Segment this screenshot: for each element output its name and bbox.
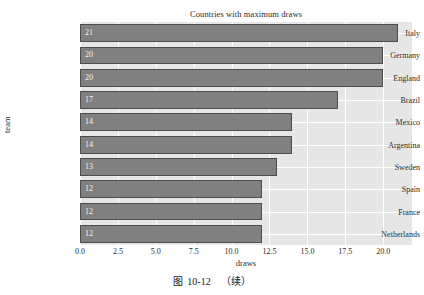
figure-caption: 图10-12（续）: [0, 273, 424, 288]
y-tick-label: Netherlands: [346, 229, 424, 238]
x-tick-label: 5.0: [136, 247, 176, 256]
y-axis-label: team: [2, 116, 12, 133]
bar-value-label: 14: [85, 141, 93, 149]
x-tick-label: 12.5: [249, 247, 289, 256]
x-tick-label: 15.0: [287, 247, 327, 256]
y-tick-label: France: [346, 207, 424, 216]
bar: 14: [80, 113, 292, 131]
caption-suffix: （续）: [221, 276, 251, 287]
x-tick-label: 10.0: [212, 247, 252, 256]
caption-number: 10-12: [187, 276, 210, 287]
bar-value-label: 12: [85, 230, 93, 238]
bar: 13: [80, 158, 277, 176]
y-tick-label: Argentina: [346, 140, 424, 149]
bar-value-label: 12: [85, 208, 93, 216]
bar: 12: [80, 203, 262, 221]
y-tick-label: Brazil: [346, 96, 424, 105]
bar: 12: [80, 225, 262, 243]
bar-value-label: 14: [85, 118, 93, 126]
bar-value-label: 21: [85, 29, 93, 37]
bar: 20: [80, 69, 383, 87]
caption-label: 图: [173, 276, 183, 287]
y-tick-label: Italy: [346, 29, 424, 38]
x-tick-label: 17.5: [325, 247, 365, 256]
figure-container: Countries with maximum draws 21202017141…: [0, 0, 424, 295]
bar: 12: [80, 180, 262, 198]
bar-value-label: 20: [85, 51, 93, 59]
bar: 17: [80, 91, 338, 109]
x-tick-label: 2.5: [98, 247, 138, 256]
bar: 14: [80, 136, 292, 154]
x-tick-label: 7.5: [174, 247, 214, 256]
bar-value-label: 20: [85, 74, 93, 82]
chart-title: Countries with maximum draws: [80, 9, 412, 19]
y-tick-label: Spain: [346, 185, 424, 194]
y-tick-label: Sweden: [346, 162, 424, 171]
x-tick-label: 0.0: [60, 247, 100, 256]
bar: 20: [80, 47, 383, 65]
bar-value-label: 13: [85, 163, 93, 171]
bar-value-label: 17: [85, 96, 93, 104]
y-tick-label: Mexico: [346, 118, 424, 127]
y-tick-label: Germany: [346, 51, 424, 60]
x-tick-label: 20.0: [363, 247, 403, 256]
bar-value-label: 12: [85, 185, 93, 193]
y-tick-label: England: [346, 73, 424, 82]
x-axis-label: draws: [80, 258, 412, 268]
